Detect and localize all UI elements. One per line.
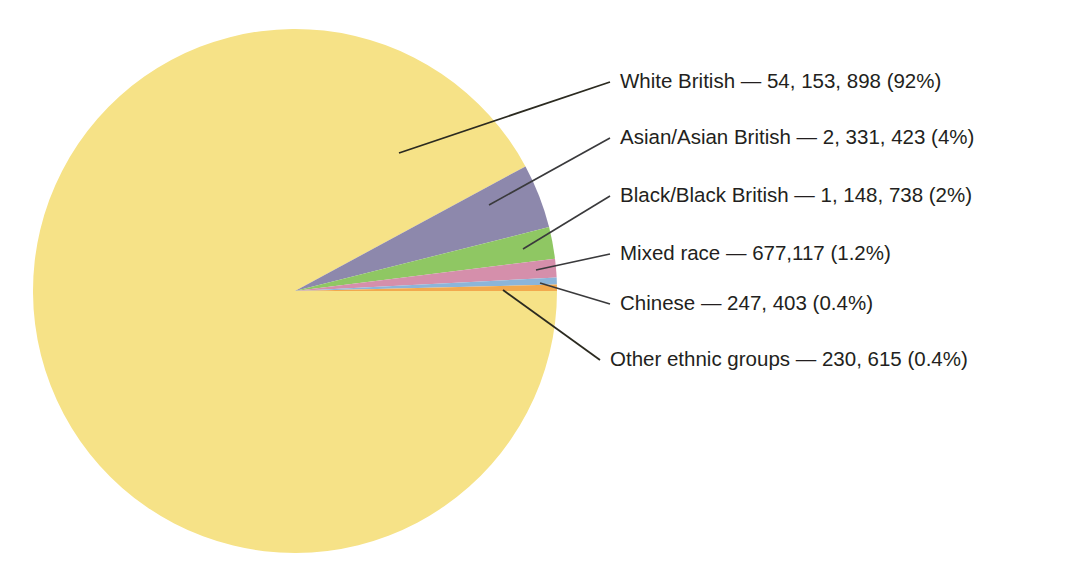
chart-canvas: White British — 54, 153, 898 (92%) Asian… (0, 0, 1073, 583)
pie-label-chinese: Chinese — 247, 403 (0.4%) (620, 291, 873, 314)
pie-label-black-black-british: Black/Black British — 1, 148, 738 (2%) (620, 183, 972, 206)
callout-labels: White British — 54, 153, 898 (92%) Asian… (610, 69, 974, 370)
pie-label-other-ethnic-groups: Other ethnic groups — 230, 615 (0.4%) (610, 347, 968, 370)
pie-label-white-british: White British — 54, 153, 898 (92%) (620, 69, 941, 92)
pie-chart-figure: White British — 54, 153, 898 (92%) Asian… (0, 0, 1073, 583)
pie-slices (33, 29, 557, 553)
pie-label-asian-asian-british: Asian/Asian British — 2, 331, 423 (4%) (620, 125, 974, 148)
pie-label-mixed-race: Mixed race — 677,117 (1.2%) (620, 241, 891, 264)
